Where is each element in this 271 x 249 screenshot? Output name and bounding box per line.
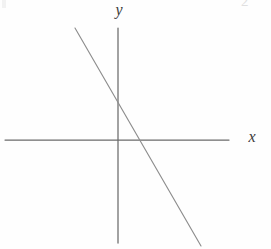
paper-background (0, 0, 271, 249)
graph-canvas (0, 0, 271, 249)
scan-edge-speck (2, 0, 6, 8)
coordinate-axes-figure: y x 2 (0, 0, 271, 249)
y-axis-label: y (110, 2, 128, 18)
corner-scan-artifact: 2 (241, 0, 271, 9)
x-axis-label: x (243, 129, 261, 145)
